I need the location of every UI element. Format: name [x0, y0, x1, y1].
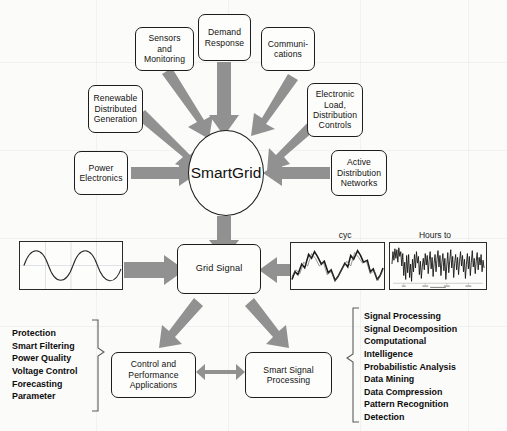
arrow-grid-signal-to-smart-processing	[245, 298, 289, 348]
list-item: Computational	[364, 335, 457, 348]
diagram-canvas: Sensors andMonitoring DemandResponse Com…	[0, 0, 507, 431]
node-renewable-distributed-generation[interactable]: RenewableDistributedGeneration	[88, 85, 143, 133]
list-item: Intelligence	[364, 348, 457, 361]
node-label-line: Distributed	[92, 104, 140, 114]
node-active-distribution-networks[interactable]: ActiveDistributionNetworks	[331, 150, 387, 196]
list-item: Parameter	[12, 390, 77, 403]
list-item: Power Quality	[12, 352, 77, 365]
plot-sine-waveform[interactable]	[19, 241, 123, 290]
list-item: Voltage Control	[12, 365, 77, 378]
list-item: Signal Decomposition	[364, 323, 457, 336]
hours-trace	[392, 248, 484, 282]
node-label-line: Distribution	[311, 110, 359, 120]
arrow-sine-to-grid-signal	[124, 255, 185, 285]
node-label-line: Processing	[261, 375, 315, 385]
node-label-line: Performance	[126, 370, 180, 380]
plot-label-cyc: cyc	[295, 230, 395, 240]
list-item: Forecasting	[12, 378, 77, 391]
hours-plot-tick-marks	[402, 286, 472, 288]
list-item: Probabilistic Analysis	[364, 361, 457, 374]
node-label-line: Networks	[335, 178, 383, 188]
node-label-line: Applications	[126, 380, 180, 390]
node-grid-signal[interactable]: Grid Signal	[177, 244, 261, 294]
hub-label-line: Grid	[232, 164, 261, 181]
cycles-plot-svg	[291, 243, 384, 289]
list-item: Signal Processing	[364, 310, 457, 323]
list-item: Smart Filtering	[12, 340, 77, 353]
list-item: Protection	[12, 327, 77, 340]
signal-processing-methods-list: Signal Processing Signal Decomposition C…	[364, 310, 457, 424]
node-power-electronics[interactable]: PowerElectronics	[74, 151, 128, 195]
node-smart-signal-processing[interactable]: Smart SignalProcessing	[245, 352, 332, 398]
hours-plot-axis	[393, 283, 483, 285]
node-label-line: cations	[266, 49, 310, 59]
arrow-renewable-to-hub	[136, 110, 197, 172]
sine-plot-svg	[20, 242, 122, 289]
list-item: Detection	[364, 411, 457, 424]
node-label-line: Power	[77, 163, 124, 173]
grid-signal-label: Grid Signal	[194, 263, 245, 274]
node-sensors-and-monitoring[interactable]: Sensors andMonitoring	[135, 27, 194, 71]
node-label-line: Generation	[92, 114, 140, 124]
node-label-line: Sensors and	[138, 33, 191, 54]
cycles-trace	[292, 251, 383, 281]
arrow-grid-signal-to-control-apps	[159, 298, 203, 348]
arrow-communications-to-hub	[251, 74, 298, 136]
arrow-control-apps-to-smart-processing	[196, 364, 245, 380]
control-applications-list: Protection Smart Filtering Power Quality…	[12, 327, 77, 403]
node-demand-response[interactable]: DemandResponse	[198, 14, 251, 61]
node-label-line: Control and	[126, 359, 180, 369]
node-communications[interactable]: Communi-cations	[261, 27, 315, 71]
plot-gridlines	[20, 242, 122, 289]
arrows-group	[124, 62, 330, 380]
right-list-bracket	[347, 308, 359, 422]
list-item: Data Compression	[364, 386, 457, 399]
node-label-line: Controls	[311, 120, 359, 130]
node-label-line: Response	[203, 38, 247, 48]
node-label-line: Electronics	[77, 173, 124, 183]
hub-smart-grid[interactable]: SmartGrid	[188, 130, 264, 216]
plot-label-hours-to: Hours to	[385, 230, 485, 240]
node-label-line: Communi-	[266, 39, 310, 49]
node-label-line: Smart Signal	[261, 365, 315, 375]
plot-cycles-waveform[interactable]	[290, 242, 385, 290]
list-item: Data Mining	[364, 373, 457, 386]
node-label-line: Demand	[203, 27, 247, 37]
arrow-sensors-to-hub	[162, 68, 213, 139]
left-list-bracket	[92, 320, 104, 411]
node-label-line: Load,	[311, 100, 359, 110]
node-electronic-load-distribution-controls[interactable]: ElectronicLoad,DistributionControls	[307, 83, 363, 137]
plot-hours-series[interactable]	[389, 242, 487, 290]
node-label-line: Electronic	[311, 89, 359, 99]
node-label-line: Renewable	[92, 93, 140, 103]
node-control-and-performance-applications[interactable]: Control andPerformanceApplications	[111, 352, 196, 398]
node-label-line: Monitoring	[138, 54, 191, 64]
arrow-demand-response-to-hub	[209, 62, 239, 136]
list-item: Pattern Recognition	[364, 398, 457, 411]
node-label-line: Active	[335, 157, 383, 167]
node-label-line: Distribution	[335, 168, 383, 178]
hub-label-line: Smart	[191, 164, 232, 181]
hours-plot-svg	[390, 243, 486, 289]
